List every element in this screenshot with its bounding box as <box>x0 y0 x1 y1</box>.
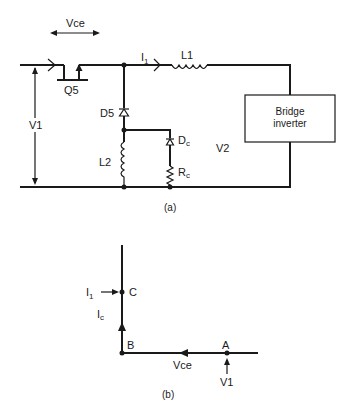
i1-arrow-icon <box>112 289 119 295</box>
point-b <box>120 351 125 356</box>
wire-top-right <box>207 65 290 95</box>
wire-dc-branch <box>124 130 170 138</box>
point-c <box>120 290 125 295</box>
v2-label: V2 <box>216 142 229 154</box>
b-label: B <box>127 339 134 351</box>
wire-bottom-rail <box>20 142 290 187</box>
i1-label-b: I1 <box>86 286 94 301</box>
resistor-rc <box>167 166 173 187</box>
circuit-diagram: Vce Q5 I1 L1 Bridge inverter V2 <box>0 0 356 418</box>
d5-label: D5 <box>100 107 114 119</box>
vce-label: Vce <box>66 17 85 29</box>
bridge-inverter-line2: inverter <box>273 118 307 129</box>
bridge-inverter-line1: Bridge <box>276 106 305 117</box>
dc-label: Dc <box>178 134 190 148</box>
junction-dot <box>168 185 173 190</box>
left-arrow-icon <box>179 349 188 357</box>
c-label: C <box>129 286 137 298</box>
vce-double-arrow <box>50 30 100 36</box>
l2-label: L2 <box>99 156 111 168</box>
ic-label: Ic <box>97 308 104 322</box>
v1-label: V1 <box>29 119 42 131</box>
caption-b: (b) <box>162 389 174 400</box>
v1-label-b: V1 <box>220 376 233 388</box>
v1-arrow-icon <box>224 358 230 365</box>
junction-dot <box>122 185 127 190</box>
diode-dc <box>166 139 174 166</box>
diode-d5 <box>119 109 129 130</box>
transistor-q5 <box>57 64 88 80</box>
i1-label: I1 <box>141 51 149 66</box>
caption-a: (a) <box>164 202 176 213</box>
figure-a: Vce Q5 I1 L1 Bridge inverter V2 <box>20 17 335 213</box>
a-label: A <box>222 339 230 351</box>
rc-label: Rc <box>178 166 190 180</box>
up-arrow-icon <box>118 322 126 331</box>
q5-label: Q5 <box>64 84 79 96</box>
point-a <box>225 351 230 356</box>
vce-label-b: Vce <box>173 359 192 371</box>
l1-label: L1 <box>181 49 193 61</box>
inductor-l1 <box>172 65 207 69</box>
inductor-l2 <box>121 142 124 187</box>
figure-b: C I1 Ic B Vce A V1 (b) <box>86 245 258 400</box>
